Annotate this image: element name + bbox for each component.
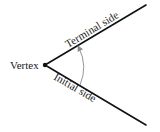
angle-diagram: Vertex Terminal side Initial side	[0, 0, 160, 132]
vertex-label: Vertex	[10, 59, 39, 71]
angle-arc	[79, 48, 84, 85]
terminal-side-ray	[45, 5, 146, 65]
vertex-point	[43, 63, 47, 67]
terminal-side-label: Terminal side	[63, 8, 121, 49]
initial-side-label: Initial side	[52, 70, 99, 104]
